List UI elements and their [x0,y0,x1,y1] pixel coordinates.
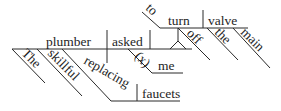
object-adjective-word: main [238,25,268,55]
infinitive-verb-word: turn [168,13,190,28]
subject-word: plumber [46,34,91,49]
implied-marker: (x) [132,49,154,71]
participle-object-word: faucets [142,86,180,101]
pedestal [170,41,186,49]
sentence-diagram: plumber asked to turn valve off the main… [0,0,281,111]
indirect-object-word: me [158,58,175,73]
adverb-word: off [184,26,206,48]
verb-word: asked [112,34,143,49]
